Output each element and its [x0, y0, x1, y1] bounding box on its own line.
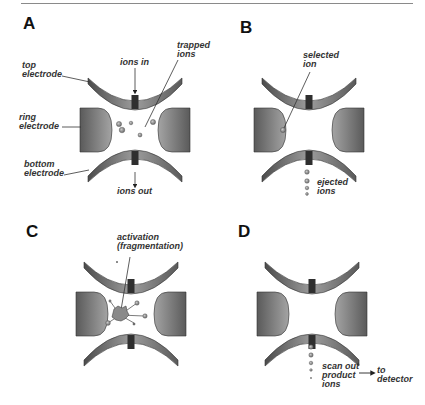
- panel-label-a: A: [23, 14, 35, 34]
- label-ions-out: ions out: [117, 187, 152, 196]
- label-activation-fragmentation: activation (fragmentation): [117, 233, 183, 251]
- label-selected-ion: selected ion: [303, 51, 339, 69]
- label-top-electrode: top electrode: [22, 61, 62, 79]
- panel-label-b: B: [240, 18, 252, 38]
- panel-b-ion-trap: [254, 78, 364, 182]
- label-ring-electrode: ring electrode: [19, 113, 59, 131]
- panel-label-c: C: [26, 222, 38, 242]
- panel-c-ion-trap: [76, 262, 186, 366]
- label-scan-out-product-ions: scan out product ions: [322, 362, 359, 389]
- panel-b-ejected-ions: [305, 170, 310, 196]
- label-trapped-ions: trapped ions: [177, 41, 210, 59]
- ion-trap-diagram: [0, 0, 425, 405]
- label-ejected-ions: ejected ions: [317, 178, 348, 196]
- label-to-detector: to detector: [377, 366, 413, 384]
- label-ions-in: ions in: [120, 58, 149, 67]
- label-bottom-electrode: bottom electrode: [24, 160, 64, 178]
- panel-label-d: D: [238, 222, 250, 242]
- panel-d-ion-trap: [257, 262, 367, 366]
- panel-a-ion-trap: [80, 78, 190, 182]
- panel-d-scanned-ions: [309, 345, 313, 379]
